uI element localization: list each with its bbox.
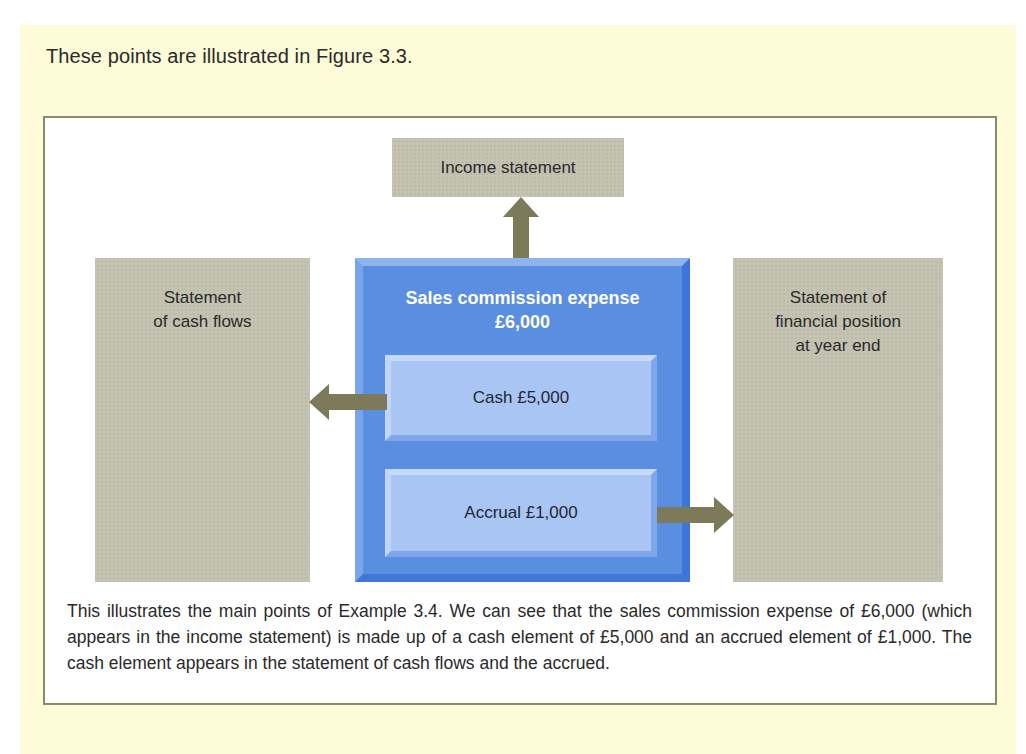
financial-position-label-line2: financial position — [733, 310, 943, 334]
cash-flows-statement-box: Statement of cash flows — [95, 258, 310, 582]
arrow-left-icon — [309, 383, 387, 421]
cash-element-box: Cash £5,000 — [385, 355, 657, 441]
expense-amount: £6,000 — [363, 310, 682, 334]
expense-title: Sales commission expense £6,000 — [363, 286, 682, 334]
financial-position-label-line1: Statement of — [733, 286, 943, 310]
sales-commission-expense-box: Sales commission expense £6,000 Cash £5,… — [355, 258, 690, 582]
page: These points are illustrated in Figure 3… — [0, 0, 1026, 754]
income-statement-box: Income statement — [392, 138, 624, 197]
cash-flows-label-line1: Statement — [95, 286, 310, 310]
financial-position-statement-box: Statement of financial position at year … — [733, 258, 943, 582]
intro-text: These points are illustrated in Figure 3… — [46, 45, 413, 68]
cash-flows-label-line2: of cash flows — [95, 310, 310, 334]
arrow-right-icon — [657, 496, 734, 534]
accrual-element-label: Accrual £1,000 — [464, 503, 577, 523]
cash-element-label: Cash £5,000 — [473, 388, 569, 408]
figure-caption: This illustrates the main points of Exam… — [67, 598, 972, 676]
arrow-up-icon — [502, 197, 540, 259]
expense-title-line1: Sales commission expense — [363, 286, 682, 310]
financial-position-label-line3: at year end — [733, 334, 943, 358]
accrual-element-box: Accrual £1,000 — [385, 469, 657, 557]
income-statement-label: Income statement — [440, 156, 575, 180]
